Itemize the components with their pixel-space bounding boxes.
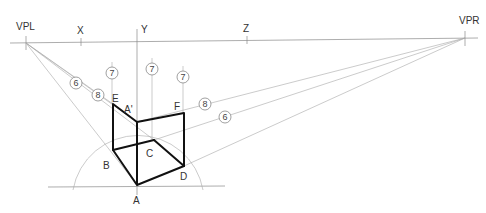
svg-text:6: 6 — [73, 78, 78, 88]
step-marker-7a: 7 — [106, 67, 118, 79]
vpl-line-a — [26, 43, 137, 185]
label-d: D — [180, 171, 187, 182]
label-f: F — [174, 101, 180, 112]
step-marker-7c: 7 — [177, 71, 189, 83]
diagram-svg: 6 8 7 7 7 8 6 VPL VPR X Y Z A B C D E F … — [0, 0, 486, 213]
vpr-line-c — [154, 38, 465, 140]
edge-cd — [154, 140, 184, 166]
label-vpl: VPL — [16, 21, 35, 32]
vpl-line-c — [26, 43, 154, 140]
label-z: Z — [243, 23, 249, 34]
svg-text:7: 7 — [109, 68, 114, 78]
label-vpr: VPR — [459, 15, 480, 26]
horizon-line — [10, 38, 478, 43]
step-marker-8-left: 8 — [92, 89, 104, 101]
cube-outline — [113, 104, 184, 185]
svg-text:6: 6 — [222, 112, 227, 122]
step-marker-6-right: 6 — [219, 111, 231, 123]
perspective-diagram: 6 8 7 7 7 8 6 VPL VPR X Y Z A B C D E F … — [0, 0, 486, 213]
svg-text:7: 7 — [180, 72, 185, 82]
label-a: A — [133, 195, 140, 206]
label-b: B — [103, 160, 110, 171]
label-x: X — [77, 25, 84, 36]
label-y: Y — [141, 24, 148, 35]
vpr-line-d — [184, 38, 465, 166]
label-a1: A' — [124, 104, 133, 115]
label-e: E — [112, 93, 119, 104]
step-marker-6-left: 6 — [70, 77, 82, 89]
svg-text:7: 7 — [149, 64, 154, 74]
step-marker-8-right: 8 — [199, 98, 211, 110]
svg-text:8: 8 — [95, 90, 100, 100]
step-marker-7b: 7 — [146, 63, 158, 75]
ground-line — [48, 186, 225, 187]
label-c: C — [146, 148, 153, 159]
svg-text:8: 8 — [202, 99, 207, 109]
